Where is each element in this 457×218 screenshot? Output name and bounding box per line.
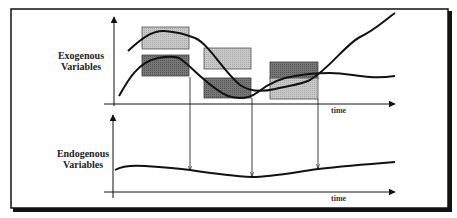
window-1-dark-box [142, 55, 189, 76]
endogenous-label: Endogenous Variables [52, 148, 114, 170]
frame-border [11, 9, 452, 212]
top-time-axis-label: time [331, 106, 346, 115]
bottom-time-axis-label: time [331, 194, 346, 203]
exogenous-label-line2: Variables [50, 61, 112, 72]
exogenous-label: Exogenous Variables [50, 50, 112, 72]
diagram-canvas [0, 0, 457, 218]
endogenous-curve [115, 162, 395, 177]
exogenous-label-line1: Exogenous [50, 50, 112, 61]
endogenous-label-line1: Endogenous [52, 148, 114, 159]
exogenous-curve-1 [128, 13, 395, 91]
endogenous-label-line2: Variables [52, 159, 114, 170]
